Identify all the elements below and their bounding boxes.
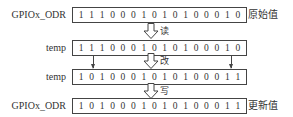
bit-cell: 0 (108, 70, 118, 84)
bit-cell: 0 (202, 70, 212, 84)
bit-cell: 0 (87, 99, 97, 113)
bit-cell: 0 (170, 99, 180, 113)
bit-cell: 1 (233, 99, 243, 113)
bit-cell: 0 (150, 99, 160, 113)
bit-cell: 0 (129, 70, 139, 84)
bit-cell: 0 (202, 8, 212, 22)
bit-cell: 0 (108, 41, 118, 55)
bit-cell: 1 (181, 8, 191, 22)
bit-cell: 1 (139, 70, 149, 84)
bit-cell: 0 (118, 70, 128, 84)
original-value-label: 原始值 (248, 8, 278, 22)
write-arrow-icon (143, 83, 159, 99)
bit-cell: 1 (160, 8, 170, 22)
row-2-label: temp (0, 41, 66, 55)
bit-cell: 1 (223, 41, 233, 55)
bit-cell: 0 (129, 41, 139, 55)
bit-cell: 0 (170, 70, 180, 84)
register-box-temp-read: 1110001010100010 (72, 40, 247, 56)
bit-cell: 0 (87, 70, 97, 84)
bit-cell: 1 (223, 8, 233, 22)
bit-cell: 0 (129, 99, 139, 113)
bit-cell: 1 (76, 99, 86, 113)
bit-cell: 0 (212, 8, 222, 22)
bit-cell: 1 (181, 99, 191, 113)
bit-cell: 0 (202, 41, 212, 55)
bit-cell: 1 (76, 41, 86, 55)
row-1-label: GPIOx_ODR (0, 8, 66, 22)
bit-cell: 0 (150, 8, 160, 22)
bit-cell: 1 (97, 41, 107, 55)
bit-cell: 0 (118, 41, 128, 55)
bit-cell: 0 (170, 41, 180, 55)
modify-bit0-arrow-icon (231, 56, 232, 68)
register-box-original: 1110001010100010 (72, 7, 247, 23)
bit-cell: 1 (97, 8, 107, 22)
modify-bit15-arrow-icon (93, 56, 94, 68)
bit-cell: 0 (191, 41, 201, 55)
bit-cell: 0 (233, 41, 243, 55)
bit-cell: 0 (150, 70, 160, 84)
bit-cell: 0 (233, 8, 243, 22)
bit-cell: 0 (118, 99, 128, 113)
bit-cell: 0 (191, 70, 201, 84)
register-box-updated: 1010001010100011 (72, 98, 247, 114)
bit-cell: 0 (129, 8, 139, 22)
bit-cell: 0 (170, 8, 180, 22)
bit-cell: 0 (108, 99, 118, 113)
write-step-label: 写 (160, 85, 169, 97)
bit-cell: 1 (97, 99, 107, 113)
modify-arrow-icon (143, 53, 159, 69)
row-4-label: GPIOx_ODR (0, 99, 66, 113)
read-step-label: 读 (160, 25, 169, 37)
bit-cell: 0 (212, 99, 222, 113)
bit-cell: 1 (181, 70, 191, 84)
bit-cell: 1 (223, 70, 233, 84)
bit-cell: 0 (212, 70, 222, 84)
read-arrow-icon (143, 23, 159, 39)
bit-cell: 1 (97, 70, 107, 84)
bit-cell: 1 (76, 8, 86, 22)
bit-cell: 1 (139, 8, 149, 22)
bit-cell: 1 (223, 99, 233, 113)
bit-cell: 0 (191, 8, 201, 22)
register-box-temp-modified: 1010001010100011 (72, 69, 247, 85)
bit-cell: 1 (76, 70, 86, 84)
bit-cell: 0 (108, 8, 118, 22)
bit-cell: 0 (212, 41, 222, 55)
bit-cell: 1 (139, 99, 149, 113)
modify-step-label: 改 (160, 55, 169, 67)
row-3-label: temp (0, 70, 66, 84)
updated-value-label: 更新值 (248, 99, 278, 113)
bit-cell: 0 (118, 8, 128, 22)
bit-cell: 1 (87, 41, 97, 55)
bit-cell: 1 (160, 70, 170, 84)
bit-cell: 1 (160, 41, 170, 55)
bit-cell: 1 (87, 8, 97, 22)
bit-cell: 1 (160, 99, 170, 113)
bit-cell: 0 (191, 99, 201, 113)
bit-cell: 1 (233, 70, 243, 84)
bit-cell: 1 (181, 41, 191, 55)
bit-cell: 0 (202, 99, 212, 113)
